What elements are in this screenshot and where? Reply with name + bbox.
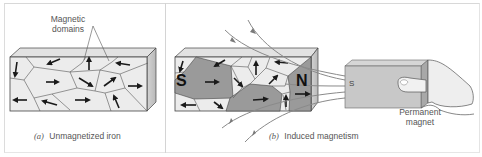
caption-b-text: Induced magnetism (284, 131, 358, 141)
pole-label-south: S (176, 72, 187, 90)
caption-a-text: Unmagnetized iron (49, 131, 120, 141)
caption-b: (b) Induced magnetism (269, 131, 358, 141)
magnet-pole-label: S (349, 79, 354, 88)
callout-line2: domains (45, 24, 91, 34)
permanent-magnet-label: Permanent magnet (396, 107, 444, 127)
caption-a-letter: (a) (34, 131, 44, 141)
magnetic-domains-label: Magnetic domains (45, 14, 91, 34)
magnet-label-line2: magnet (396, 117, 444, 127)
callout-line1: Magnetic (45, 14, 91, 24)
panel-a-iron-block (10, 26, 156, 111)
pole-label-north: N (296, 72, 308, 90)
caption-b-letter: (b) (269, 131, 279, 141)
magnet-label-line1: Permanent (396, 107, 444, 117)
caption-a: (a) Unmagnetized iron (34, 131, 121, 141)
